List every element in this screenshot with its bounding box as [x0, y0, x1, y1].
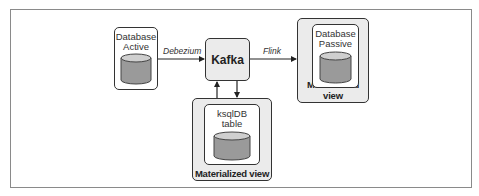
database-cylinder-icon: [121, 54, 151, 84]
database-cylinder-icon: [214, 132, 250, 160]
database-cylinder-icon: [320, 52, 351, 83]
edge-label-flink: Flink: [263, 46, 281, 56]
edge-label-debezium: Debezium: [163, 46, 201, 56]
diagram-graphics: [0, 0, 479, 196]
